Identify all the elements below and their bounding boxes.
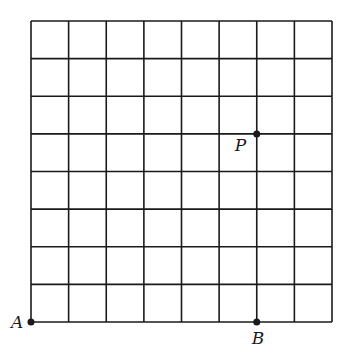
point-b-dot [253,319,260,326]
grid-lines [31,21,332,322]
point-p-label: P [234,135,247,155]
grid-labels: APB [9,135,264,348]
point-a-dot [28,319,35,326]
point-b-label: B [251,328,265,348]
point-p-dot [253,130,260,137]
grid-diagram: APB [0,0,349,363]
point-a-label: A [9,312,23,332]
